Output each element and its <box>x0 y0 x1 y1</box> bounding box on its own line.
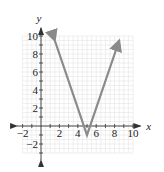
y-tick-label: 6 <box>33 66 39 78</box>
y-tick-label: 2 <box>33 102 39 114</box>
x-axis-label: x <box>145 120 151 132</box>
y-tick-label: 8 <box>33 48 39 60</box>
y-tick-label: −2 <box>26 138 38 150</box>
y-axis-label: y <box>36 12 42 24</box>
x-tick-label: 8 <box>112 127 118 139</box>
y-tick-label: 4 <box>33 84 39 96</box>
absolute-value-graph: −2246810108642−2xy <box>0 0 164 172</box>
x-tick-label: 2 <box>57 127 63 139</box>
x-tick-label: 10 <box>128 127 140 139</box>
x-tick-label: 6 <box>93 127 99 139</box>
x-tick-label: 4 <box>75 127 81 139</box>
y-tick-label: 10 <box>27 30 39 42</box>
